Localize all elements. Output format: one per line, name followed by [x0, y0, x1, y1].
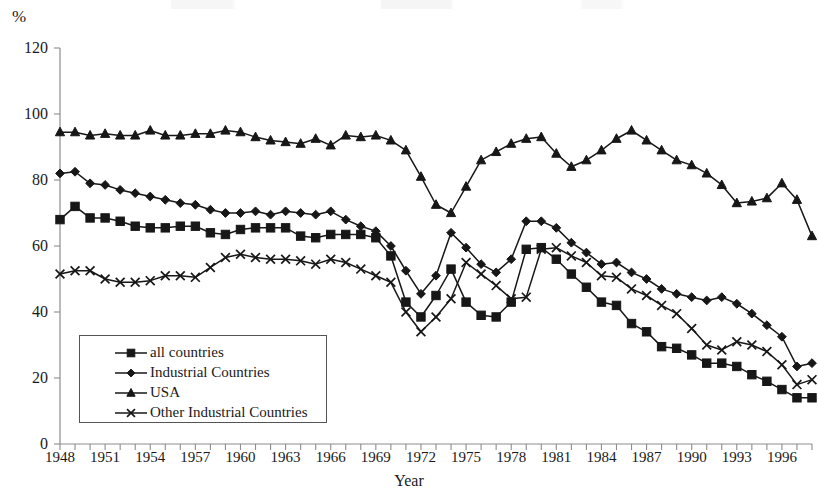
legend-marker-cross-icon [114, 405, 148, 421]
marker-diamond [101, 181, 110, 190]
marker-diamond [116, 186, 125, 195]
marker-triangle [401, 145, 410, 154]
marker-square [176, 222, 184, 230]
marker-square [522, 245, 530, 253]
x-tick-label: 1996 [752, 450, 812, 465]
marker-cross [477, 270, 486, 279]
y-tick-label: 60 [4, 238, 48, 254]
marker-triangle [612, 134, 621, 143]
marker-diamond [717, 293, 726, 302]
marker-triangle [702, 168, 711, 177]
marker-triangle [446, 208, 455, 217]
marker-cross [402, 308, 411, 317]
marker-square [191, 222, 199, 230]
marker-square [327, 230, 335, 238]
y-tick-label: 20 [4, 370, 48, 386]
marker-diamond [356, 222, 365, 231]
marker-triangle [477, 155, 486, 164]
legend-item-usa[interactable]: USA [114, 382, 180, 403]
marker-cross [702, 341, 711, 350]
marker-diamond [672, 289, 681, 298]
marker-square [597, 298, 605, 306]
marker-square [627, 319, 635, 327]
marker-triangle [311, 134, 320, 143]
marker-cross [417, 327, 426, 336]
marker-triangle [221, 126, 230, 135]
marker-square [567, 270, 575, 278]
marker-triangle [431, 200, 440, 209]
marker-diamond [687, 293, 696, 302]
marker-diamond [191, 200, 200, 209]
marker-diamond [311, 210, 320, 219]
marker-cross [567, 252, 576, 261]
marker-cross [687, 324, 696, 333]
marker-triangle [657, 145, 666, 154]
marker-cross [462, 258, 471, 267]
marker-square [462, 298, 470, 306]
marker-square [236, 225, 244, 233]
marker-triangle [461, 182, 470, 191]
marker-square [808, 394, 816, 402]
series-line [60, 131, 812, 237]
legend-item-other-industrial-countries[interactable]: Other Industrial Countries [114, 402, 307, 423]
marker-square [703, 359, 711, 367]
marker-triangle [341, 130, 350, 139]
marker-diamond [221, 209, 230, 218]
legend-item-industrial-countries[interactable]: Industrial Countries [114, 362, 270, 383]
marker-diamond [176, 199, 185, 208]
marker-cross [206, 263, 215, 272]
y-tick-label: 100 [4, 106, 48, 122]
marker-square [778, 385, 786, 393]
marker-diamond [56, 169, 65, 178]
legend-label: Industrial Countries [150, 365, 270, 380]
marker-cross [762, 347, 771, 356]
y-tick-label: 40 [4, 304, 48, 320]
marker-square [763, 377, 771, 385]
marker-square [477, 311, 485, 319]
marker-diamond [522, 217, 531, 226]
chart-legend: all countriesIndustrial CountriesUSAOthe… [79, 335, 327, 423]
marker-square [116, 217, 124, 225]
marker-square [672, 344, 680, 352]
marker-square [748, 371, 756, 379]
marker-cross [642, 291, 651, 300]
marker-square [687, 351, 695, 359]
y-tick-label: 120 [4, 40, 48, 56]
marker-triangle [777, 178, 786, 187]
marker-square [417, 313, 425, 321]
marker-cross [808, 375, 817, 384]
marker-cross [778, 360, 787, 369]
marker-diamond [657, 285, 666, 294]
marker-square [311, 234, 319, 242]
marker-cross [432, 313, 441, 322]
marker-diamond [612, 258, 621, 267]
marker-cross [717, 346, 726, 355]
marker-diamond [281, 207, 290, 216]
marker-square [642, 328, 650, 336]
marker-square [127, 349, 135, 357]
marker-triangle [627, 126, 636, 135]
marker-cross [582, 258, 591, 267]
marker-square [552, 255, 560, 263]
marker-square [281, 224, 289, 232]
marker-diamond [146, 192, 155, 201]
marker-cross [657, 301, 666, 310]
marker-diamond [627, 268, 636, 277]
marker-triangle [672, 155, 681, 164]
legend-item-all-countries[interactable]: all countries [114, 342, 224, 363]
marker-triangle [537, 132, 546, 141]
marker-triangle [146, 126, 155, 135]
marker-diamond [402, 266, 411, 275]
marker-square [71, 202, 79, 210]
marker-diamond [161, 195, 170, 204]
marker-cross [386, 278, 395, 287]
marker-square [251, 224, 259, 232]
marker-square [447, 265, 455, 273]
marker-square [387, 252, 395, 260]
series-usa [55, 126, 816, 240]
marker-square [101, 214, 109, 222]
legend-label: Other Industrial Countries [150, 405, 307, 420]
marker-square [657, 342, 665, 350]
marker-diamond [793, 362, 802, 371]
marker-diamond [326, 207, 335, 216]
